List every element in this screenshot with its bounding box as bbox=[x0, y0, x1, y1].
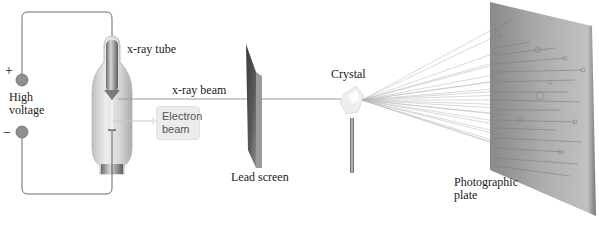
photographic-plate-label-line2: plate bbox=[454, 189, 477, 202]
lead-screen-label: Lead screen bbox=[231, 171, 289, 184]
high-voltage-label-line2: voltage bbox=[9, 104, 44, 117]
electron-beam-label-line2: beam bbox=[162, 123, 194, 136]
xray-tube-label: x-ray tube bbox=[127, 43, 176, 56]
plus-sign-label: + bbox=[5, 64, 13, 77]
negative-terminal-icon bbox=[16, 126, 28, 138]
crystal-label: Crystal bbox=[331, 68, 366, 81]
xray-beam-label: x-ray beam bbox=[172, 84, 226, 97]
positive-terminal-icon bbox=[16, 74, 28, 86]
crystal-icon bbox=[340, 86, 364, 173]
xray-tube-icon bbox=[92, 36, 132, 178]
lead-screen-icon bbox=[246, 44, 262, 168]
minus-sign-label: − bbox=[3, 126, 11, 139]
electron-beam-label-line1: Electron bbox=[162, 110, 194, 123]
electron-beam-callout: Electron beam bbox=[156, 106, 200, 140]
